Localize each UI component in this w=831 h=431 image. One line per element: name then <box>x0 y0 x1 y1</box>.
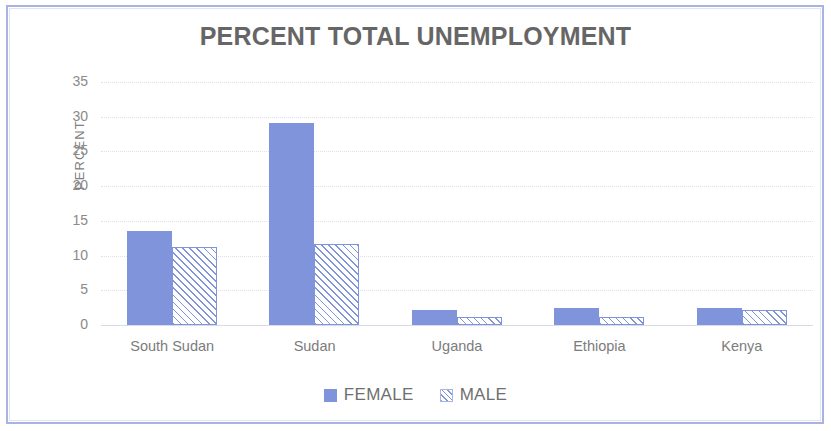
bar-male-kenya[interactable] <box>742 310 787 325</box>
bar-female-ethiopia[interactable] <box>554 308 599 325</box>
chart-legend: FEMALE MALE <box>0 385 831 405</box>
bar-group <box>528 82 670 325</box>
x-axis-baseline <box>101 325 813 326</box>
hatched-square-icon <box>440 389 453 402</box>
chart-page: PERCENT TOTAL UNEMPLOYMENT PERCENT 05101… <box>0 0 831 431</box>
bar-group <box>101 82 243 325</box>
x-axis-tick-label: Ethiopia <box>519 338 679 354</box>
bar-female-south-sudan[interactable] <box>127 231 172 325</box>
y-axis-tick-label: 0 <box>48 317 88 331</box>
bar-group <box>671 82 813 325</box>
bar-group <box>386 82 528 325</box>
legend-item-female[interactable]: FEMALE <box>324 385 414 405</box>
y-axis-tick-label: 30 <box>48 109 88 123</box>
legend-label-female: FEMALE <box>344 385 414 405</box>
y-axis-tick-label: 5 <box>48 282 88 296</box>
y-axis-tick-label: 25 <box>48 143 88 157</box>
x-axis-tick-label: Uganda <box>377 338 537 354</box>
bar-group <box>243 82 385 325</box>
bar-male-uganda[interactable] <box>457 317 502 325</box>
solid-square-icon <box>324 389 337 402</box>
bar-male-ethiopia[interactable] <box>599 317 644 325</box>
bar-male-south-sudan[interactable] <box>172 247 217 325</box>
y-axis-tick-label: 20 <box>48 178 88 192</box>
legend-label-male: MALE <box>460 385 508 405</box>
bar-male-sudan[interactable] <box>314 244 359 325</box>
y-axis-tick-label: 35 <box>48 74 88 88</box>
plot-wrapper: PERCENT 05101520253035 South SudanSudanU… <box>0 0 831 431</box>
plot-area <box>101 82 813 325</box>
y-axis-tick-label: 15 <box>48 213 88 227</box>
x-axis-tick-label: Kenya <box>662 338 822 354</box>
bar-female-uganda[interactable] <box>412 310 457 325</box>
x-axis-tick-label: Sudan <box>235 338 395 354</box>
bar-female-kenya[interactable] <box>697 308 742 325</box>
legend-item-male[interactable]: MALE <box>440 385 508 405</box>
bar-female-sudan[interactable] <box>269 123 314 325</box>
x-axis-tick-label: South Sudan <box>92 338 252 354</box>
y-axis-tick-label: 10 <box>48 248 88 262</box>
